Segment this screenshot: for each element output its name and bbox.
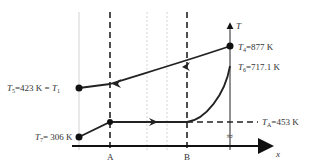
cold-stream-curve xyxy=(79,66,230,137)
label-t6: T6=717.1 K xyxy=(238,62,281,73)
label-ta: TA=453 K xyxy=(262,117,299,128)
point-t4 xyxy=(227,43,234,50)
point-t7 xyxy=(76,134,83,141)
label-t7: T7= 306 K xyxy=(35,132,73,143)
x-axis-label: x xyxy=(275,149,280,159)
hot-stream-curve xyxy=(79,46,230,88)
hot-stream-arrow-a xyxy=(112,79,121,88)
point-t5 xyxy=(76,85,83,92)
marker-b-label: B xyxy=(184,152,190,162)
axis-break-icon: ≈ xyxy=(226,131,234,141)
t-axis-label: T xyxy=(236,21,242,31)
marker-a-label: A xyxy=(107,152,114,162)
temperature-profile-diagram: T x ≈ T5=423 K = T1 T7= 306 K T4=877 K T… xyxy=(0,0,314,167)
point-a-lower xyxy=(107,119,113,125)
hot-stream-arrow-b xyxy=(182,62,190,71)
label-t5: T5=423 K = T1 xyxy=(7,83,60,94)
label-t4: T4=877 K xyxy=(238,42,274,53)
